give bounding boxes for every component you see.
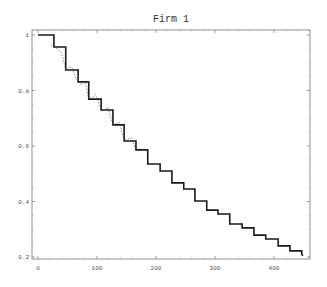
x-tick-label: 200 [151,265,162,272]
y-tick-label: 0.4 [18,199,29,206]
x-tick-label: 300 [210,265,221,272]
x-tick-label: 0 [36,265,40,272]
plot-area [38,35,303,256]
x-tick-label: 100 [92,265,103,272]
y-tick-label: 0.2 [18,254,29,261]
plot-frame [32,30,310,259]
y-tick-label: 0.8 [18,88,29,95]
chart: Firm 1 0100200300400 0.20.40.60.81 [0,0,327,287]
chart-title: Firm 1 [153,14,189,25]
x-tick-label: 400 [269,265,280,272]
x-axis: 0100200300400 [36,30,309,272]
empirical-series-line [51,45,136,150]
y-tick-label: 1 [25,32,29,39]
y-axis: 0.20.40.60.81 [18,32,310,261]
y-tick-label: 0.6 [18,143,29,150]
step-series-line [38,35,303,256]
